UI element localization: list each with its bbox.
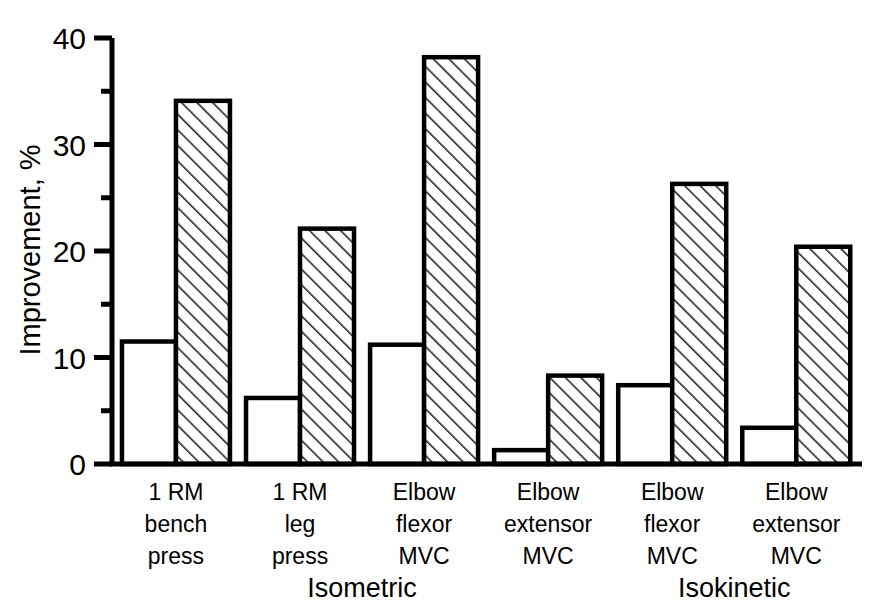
category-label-line: leg	[285, 511, 316, 537]
category-label-line: 1 RM	[273, 479, 328, 505]
category-label-line: MVC	[523, 543, 574, 569]
bar-hatched	[176, 101, 230, 464]
category-label-line: Elbow	[765, 479, 828, 505]
category-label-line: Elbow	[393, 479, 456, 505]
bar-hatched	[300, 229, 354, 464]
category-label-line: press	[272, 543, 328, 569]
y-tick-label: 10	[53, 342, 86, 375]
y-tick-label: 0	[69, 448, 86, 481]
category-labels: 1 RMbenchpress1 RMlegpressElbowflexorMVC…	[145, 479, 841, 569]
bar-hatched	[424, 57, 478, 464]
category-label-line: press	[148, 543, 204, 569]
category-label-line: flexor	[644, 511, 701, 537]
bar-hatched	[672, 184, 726, 464]
bar-chart-figure: 010203040 1 RMbenchpress1 RMlegpressElbo…	[0, 0, 874, 609]
bar-hatched	[548, 376, 602, 464]
category-label-line: 1 RM	[148, 479, 203, 505]
category-label-line: bench	[145, 511, 208, 537]
bar-open	[122, 342, 176, 464]
y-tick-labels: 010203040	[53, 22, 86, 481]
y-tick-label: 40	[53, 22, 86, 55]
category-label-line: extensor	[752, 511, 841, 537]
category-label-line: MVC	[647, 543, 698, 569]
group-span-label: Isometric	[307, 573, 417, 603]
bars-group	[122, 57, 850, 464]
bar-open	[370, 345, 424, 464]
category-label-line: Elbow	[641, 479, 704, 505]
bar-open	[742, 428, 796, 464]
category-label-line: Elbow	[517, 479, 580, 505]
category-label-line: extensor	[504, 511, 593, 537]
bar-hatched	[796, 247, 850, 464]
category-label-line: MVC	[399, 543, 450, 569]
bar-open	[246, 398, 300, 464]
category-label-line: flexor	[396, 511, 453, 537]
y-axis-title: Improvement, %	[14, 144, 46, 355]
category-label-line: MVC	[771, 543, 822, 569]
chart-canvas: 010203040 1 RMbenchpress1 RMlegpressElbo…	[0, 0, 874, 609]
y-tick-label: 30	[53, 129, 86, 162]
group-span-label: Isokinetic	[678, 573, 791, 603]
bar-open	[618, 385, 672, 464]
y-tick-label: 20	[53, 235, 86, 268]
group-span-labels: IsometricIsokinetic	[307, 573, 790, 603]
